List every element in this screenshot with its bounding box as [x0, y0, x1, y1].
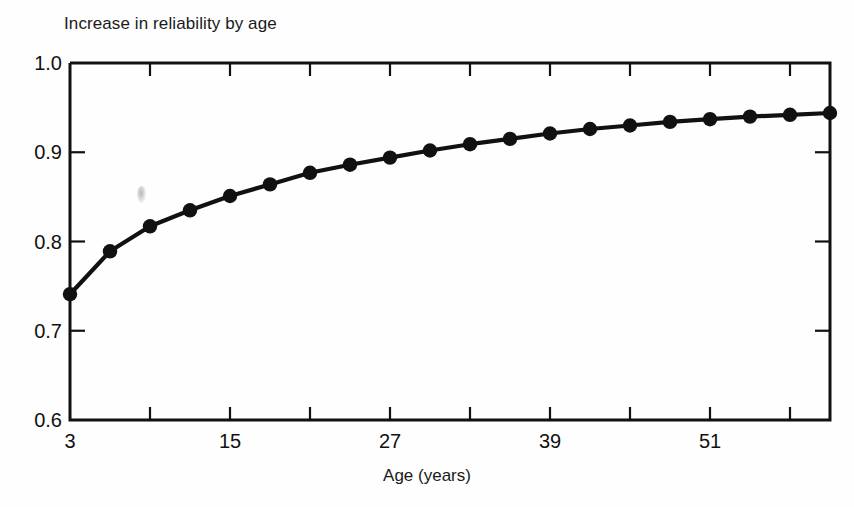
y-tick-label: 0.9 — [8, 141, 62, 164]
y-tick-label: 0.8 — [8, 230, 62, 253]
data-point — [223, 189, 237, 203]
data-point — [703, 112, 717, 126]
x-tick-label: 15 — [219, 430, 241, 453]
data-point — [623, 118, 637, 132]
data-point — [303, 166, 317, 180]
data-point — [343, 158, 357, 172]
x-tick-label: 51 — [699, 430, 721, 453]
y-tick-label: 0.7 — [8, 319, 62, 342]
x-tick-label: 3 — [64, 430, 75, 453]
data-series — [63, 106, 837, 302]
data-point — [823, 106, 837, 120]
data-point — [143, 219, 157, 233]
data-point — [103, 244, 117, 258]
data-point — [783, 108, 797, 122]
x-tick-label: 39 — [539, 430, 561, 453]
x-tick-label: 27 — [379, 430, 401, 453]
y-tick-label: 1.0 — [8, 52, 62, 75]
data-point — [423, 143, 437, 157]
data-point — [63, 287, 77, 301]
x-axis-title: Age (years) — [0, 466, 854, 486]
data-point — [383, 150, 397, 164]
chart-figure: Increase in reliability by age 0.60.70.8… — [0, 0, 854, 507]
data-point — [263, 177, 277, 191]
data-point — [183, 203, 197, 217]
data-point — [503, 132, 517, 146]
data-point — [663, 115, 677, 129]
data-point — [583, 122, 597, 136]
y-tick-label: 0.6 — [8, 409, 62, 432]
data-point — [543, 126, 557, 140]
data-point — [463, 137, 477, 151]
data-point — [743, 109, 757, 123]
plot-area — [0, 0, 854, 507]
y-axis-tick-labels: 0.60.70.80.91.0 — [0, 0, 62, 507]
